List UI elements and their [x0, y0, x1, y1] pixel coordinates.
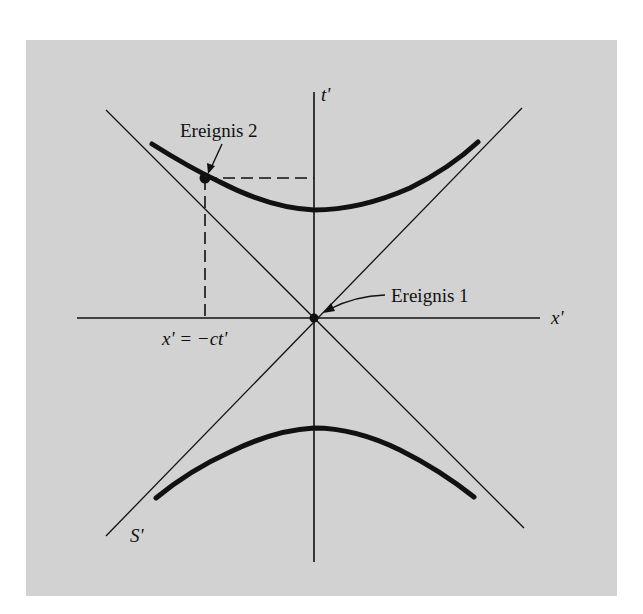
lower-hyperbola: [156, 428, 474, 498]
event-2-dot: [200, 173, 211, 184]
frame-label: S': [130, 525, 145, 546]
event-2-pointer: [211, 144, 222, 168]
spacetime-diagram: Ereignis 2 Ereignis 1 t' x' x' = −ct' S': [0, 0, 643, 614]
x-axis-label: x': [550, 307, 564, 328]
event-1-arrowhead-icon: [323, 303, 335, 313]
event-2-label: Ereignis 2: [180, 120, 258, 141]
event-1-label: Ereignis 1: [391, 285, 469, 306]
t-axis-label: t': [321, 84, 331, 105]
event-1-dot: [310, 314, 319, 323]
event-2-arrowhead-icon: [207, 163, 215, 174]
projection-label: x' = −ct': [161, 328, 228, 349]
